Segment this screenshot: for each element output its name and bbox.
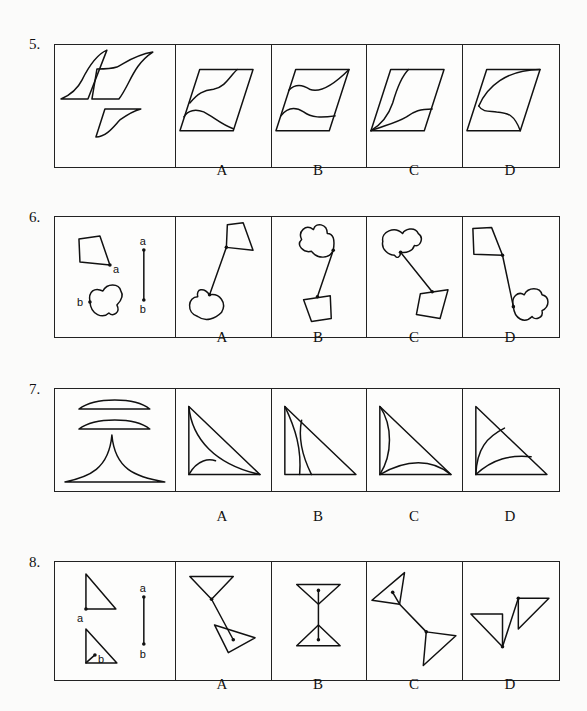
q5-label-a: A [217, 162, 228, 179]
q6-label-c: C [409, 329, 419, 346]
question-7-figure-row [54, 388, 560, 492]
question-number-7: 7. [29, 381, 40, 398]
q8-stem-figure: a b a b [55, 562, 175, 680]
segment-label-a: a [140, 582, 147, 594]
q6-option-b[interactable] [271, 217, 367, 337]
q7-label-c: C [409, 508, 419, 525]
q7-label-b: B [313, 508, 323, 525]
q5-label-d: D [505, 162, 516, 179]
question-8-figure-row: a b a b [54, 561, 560, 681]
q6-option-a[interactable] [175, 217, 271, 337]
q7-option-b[interactable] [271, 389, 367, 491]
q5-option-b[interactable] [271, 45, 367, 167]
question-number-8: 8. [29, 554, 40, 571]
q5-option-a[interactable] [175, 45, 271, 167]
q7-label-a: A [217, 508, 228, 525]
q6-option-labels: A B C D [0, 329, 587, 349]
question-5-figure-row [54, 44, 560, 168]
point-label-a: a [77, 612, 84, 624]
q8-option-b[interactable] [271, 562, 367, 680]
point-label-b: b [98, 653, 104, 665]
q8-label-b: B [313, 676, 323, 693]
segment-label-b: b [140, 303, 146, 315]
q8-label-a: A [217, 676, 228, 693]
q7-option-a[interactable] [175, 389, 271, 491]
q7-option-d[interactable] [462, 389, 559, 491]
q7-option-labels: A B C D [0, 508, 587, 528]
q5-label-c: C [409, 162, 419, 179]
q7-option-c[interactable] [366, 389, 462, 491]
q6-label-b: B [313, 329, 323, 346]
q8-option-c[interactable] [366, 562, 462, 680]
question-number-5: 5. [29, 36, 40, 53]
q5-label-b: B [313, 162, 323, 179]
segment-label-b: b [140, 648, 146, 660]
q5-option-c[interactable] [366, 45, 462, 167]
q8-option-d[interactable] [462, 562, 559, 680]
q6-label-d: D [505, 329, 516, 346]
q8-label-c: C [409, 676, 419, 693]
q8-label-d: D [505, 676, 516, 693]
q5-stem-figure [55, 45, 175, 167]
question-number-6: 6. [29, 209, 40, 226]
point-label-a: a [113, 263, 120, 275]
segment-label-a: a [140, 235, 147, 247]
question-6-figure-row: a b a b [54, 216, 560, 338]
q6-option-d[interactable] [462, 217, 559, 337]
q5-option-labels: A B C D [0, 162, 587, 182]
q7-stem-figure [55, 389, 175, 491]
q8-option-a[interactable] [175, 562, 271, 680]
q8-option-labels: A B C D [0, 676, 587, 696]
q6-label-a: A [217, 329, 228, 346]
q7-label-d: D [505, 508, 516, 525]
point-label-b: b [77, 296, 83, 308]
q5-option-d[interactable] [462, 45, 559, 167]
q6-stem-figure: a b a b [55, 217, 175, 337]
q6-option-c[interactable] [366, 217, 462, 337]
